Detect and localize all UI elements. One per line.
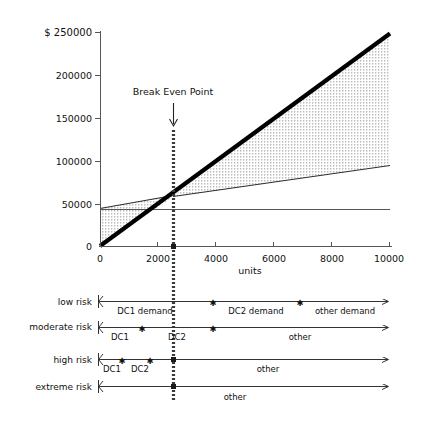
risk-seg-label-high-0: DC1	[103, 364, 121, 374]
figure-svg: $ 250000 200000 150000 100000 50000 0 0 …	[0, 0, 423, 427]
risk-row-label-high: high risk	[53, 355, 92, 365]
y-tick-label-200000: 200000	[56, 70, 92, 81]
risk-row-label-moderate: moderate risk	[29, 322, 93, 332]
y-tick-label-0: 0	[86, 241, 92, 252]
risk-seg-label-high-1: DC2	[131, 364, 149, 374]
bep-crossing-extreme	[171, 384, 176, 389]
risk-row-extreme: extreme risk other	[35, 380, 388, 402]
y-tick-label-100000: 100000	[56, 156, 92, 167]
risk-row-moderate: moderate risk ✱ ✱ DC1 DC2 other	[29, 321, 388, 342]
x-tick-label-6000: 6000	[262, 253, 286, 264]
break-even-annotation: Break Even Point	[133, 86, 214, 401]
bep-crossing-high	[171, 357, 176, 362]
x-tick-label-4000: 4000	[204, 253, 228, 264]
x-tick-label-10000: 10000	[374, 253, 404, 264]
risk-seg-label-low-1: DC2 demand	[228, 306, 284, 316]
risk-row-low: low risk ✱ ✱ DC1 demand DC2 demand other…	[58, 295, 388, 316]
risk-row-high: high risk ✱ ✱ DC1 DC2 other	[53, 353, 388, 374]
y-tick-label-50000: 50000	[62, 199, 92, 210]
risk-seg-label-extreme-0: other	[224, 392, 247, 402]
risk-seg-label-high-2: other	[257, 364, 280, 374]
x-tick-label-2000: 2000	[146, 253, 170, 264]
risk-row-label-extreme: extreme risk	[35, 382, 92, 392]
y-tick-label-150000: 150000	[56, 113, 92, 124]
x-tick-label-0: 0	[97, 253, 103, 264]
risk-marker-moderate-1: ✱	[138, 324, 145, 334]
risk-row-label-low: low risk	[58, 297, 93, 307]
y-axis-title: $ 250000	[44, 27, 92, 38]
breakeven-risk-figure: $ 250000 200000 150000 100000 50000 0 0 …	[0, 0, 423, 427]
risk-marker-low-1: ✱	[209, 298, 216, 308]
bep-crossing-xaxis	[171, 244, 176, 249]
risk-seg-label-low-0: DC1 demand	[117, 306, 173, 316]
risk-marker-moderate-2: ✱	[209, 324, 216, 334]
risk-seg-label-moderate-0: DC1	[111, 332, 129, 342]
risk-seg-label-low-2: other demand	[315, 306, 375, 316]
risk-seg-label-moderate-2: other	[289, 332, 312, 342]
risk-marker-low-2: ✱	[296, 298, 303, 308]
risk-seg-label-moderate-1: DC2	[168, 332, 186, 342]
chart-plot-area: $ 250000 200000 150000 100000 50000 0 0 …	[44, 27, 404, 276]
break-even-label: Break Even Point	[133, 86, 214, 97]
x-tick-label-8000: 8000	[320, 253, 344, 264]
x-axis-title: units	[238, 265, 261, 276]
risk-diagram: low risk ✱ ✱ DC1 demand DC2 demand other…	[29, 244, 388, 402]
